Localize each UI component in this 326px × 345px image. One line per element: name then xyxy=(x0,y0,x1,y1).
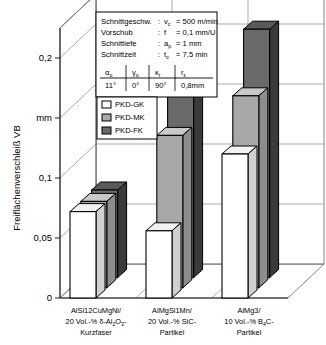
legend-label-2: PKD-FK xyxy=(115,126,143,135)
category-label-0-line3: Kurzfaser xyxy=(80,328,112,337)
bar-0-0[interactable] xyxy=(70,204,105,298)
tool-value-3: 0,8mm xyxy=(181,81,204,90)
legend-label-0: PKD-GK xyxy=(115,100,144,109)
bar-1-0[interactable] xyxy=(146,223,181,298)
bar-front-face xyxy=(222,154,248,298)
category-label-0-line2: 20 Vol.-% δ-Al2O3- xyxy=(66,317,127,327)
tool-value-2: 90° xyxy=(155,81,166,90)
legend: PKD-GKPKD-MKPKD-FK xyxy=(97,97,157,139)
legend-label-1: PKD-MK xyxy=(115,113,145,122)
param-value-3: = 7,5 min xyxy=(176,50,207,59)
param-name-0: Schnittgeschw. xyxy=(101,17,152,26)
y-tick-label-3: mm xyxy=(36,112,52,123)
category-label-1-line1: AlMgSi1Mn/ xyxy=(152,306,193,315)
chart-root: 00,050,1mm0,2Freiflächenverschleiß VBAlS… xyxy=(0,0,326,345)
bar-side-face xyxy=(270,21,279,277)
param-name-2: Schnittiefe xyxy=(101,39,136,48)
y-tick-label-0: 0 xyxy=(47,292,52,303)
category-label-1-line3: Partikel xyxy=(160,328,185,337)
category-label-2-line2: 10 Vol.-% B4C- xyxy=(224,317,274,327)
params-box: Schnittgeschw.:vc= 500 m/minVorschub:f= … xyxy=(96,12,218,97)
bar-side-face xyxy=(259,88,268,288)
category-label-2-line1: AlMg3/ xyxy=(237,306,261,315)
bar-side-face xyxy=(96,204,105,298)
param-name-3: Schnittzeit xyxy=(101,50,137,59)
tool-value-0: 11° xyxy=(105,81,116,90)
y-axis-ticks: 00,050,1mm0,2 xyxy=(34,52,61,303)
bar-side-face xyxy=(118,182,127,278)
y-axis-title: Freiflächenverschleiß VB xyxy=(11,125,22,231)
bar-side-face xyxy=(107,193,116,287)
tool-value-1: 0° xyxy=(132,81,139,90)
category-label-0-line1: AlSi12CuMgNi/ xyxy=(71,306,122,315)
bar-2-0[interactable] xyxy=(222,146,257,298)
param-value-0: = 500 m/min xyxy=(176,17,218,26)
bar-chart-3d: 00,050,1mm0,2Freiflächenverschleiß VBAlS… xyxy=(0,0,326,345)
category-labels: AlSi12CuMgNi/20 Vol.-% δ-Al2O3-Kurzfaser… xyxy=(66,306,275,337)
category-label-1-line2: 20 Vol.-% SiC- xyxy=(148,317,197,326)
y-tick-label-2: 0,1 xyxy=(39,172,52,183)
param-name-1: Vorschub xyxy=(101,28,133,37)
legend-swatch-1 xyxy=(102,114,111,121)
param-value-2: = 1 mm xyxy=(176,39,202,48)
param-sep-1: : xyxy=(158,28,160,37)
param-value-1: = 0,1 mm/U xyxy=(176,28,215,37)
category-label-2-line3: Partikel xyxy=(237,328,262,337)
bar-front-face xyxy=(146,231,172,298)
bar-side-face xyxy=(183,127,192,287)
bar-side-face xyxy=(172,223,181,298)
y-axis-title-text: Freiflächenverschleiß VB xyxy=(11,125,22,231)
y-tick-label-1: 0,05 xyxy=(34,232,53,243)
bar-side-face xyxy=(248,146,257,298)
bar-side-face xyxy=(194,82,203,277)
param-sep-3: : xyxy=(158,50,160,59)
legend-swatch-0 xyxy=(102,101,111,108)
y-tick-label-4: 0,2 xyxy=(39,52,52,63)
param-sep-2: : xyxy=(158,39,160,48)
legend-swatch-2 xyxy=(102,127,111,134)
bar-front-face xyxy=(70,212,96,298)
param-sep-0: : xyxy=(158,17,160,26)
